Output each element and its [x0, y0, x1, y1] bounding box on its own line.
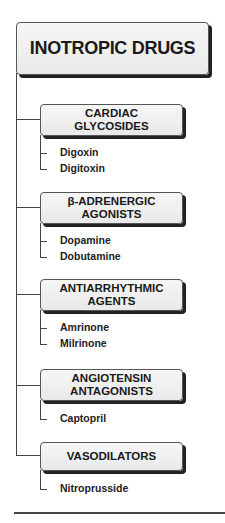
branch-angiotensin	[40, 400, 41, 420]
node-label-line1: VASODILATORS	[67, 450, 156, 463]
node-label-line1: CARDIAC	[85, 107, 138, 120]
node-angiotensin-antagonists: ANGIOTENSIN ANTAGONISTS	[40, 369, 183, 401]
tick-digitoxin	[40, 169, 47, 170]
node-label-line2: AGONISTS	[81, 208, 141, 221]
node-label-line2: ANTAGONISTS	[70, 385, 153, 398]
connector-beta	[16, 207, 40, 208]
node-vasodilators: VASODILATORS	[40, 442, 183, 471]
tick-dobutamine	[40, 257, 47, 258]
connector-angiotensin	[16, 385, 40, 386]
connector-vasodilators	[16, 455, 40, 456]
drug-digoxin: Digoxin	[60, 146, 99, 158]
bottom-divider	[14, 512, 225, 514]
drug-milrinone: Milrinone	[60, 337, 107, 349]
connector-cardiac	[16, 119, 40, 120]
node-cardiac-glycosides: CARDIAC GLYCOSIDES	[40, 104, 183, 136]
root-title: INOTROPIC DRUGS	[30, 38, 196, 59]
node-label-line1: β-ADRENERGIC	[67, 195, 155, 208]
branch-antiarrhythmic	[40, 310, 41, 344]
tick-amrinone	[40, 328, 47, 329]
drug-captopril: Captopril	[60, 412, 106, 424]
node-label-line1: ANGIOTENSIN	[72, 372, 152, 385]
node-label-line2: AGENTS	[88, 295, 136, 308]
branch-vasodilators	[40, 470, 41, 490]
tick-captopril	[40, 419, 47, 420]
drug-digitoxin: Digitoxin	[60, 162, 105, 174]
node-beta-adrenergic-agonists: β-ADRENERGIC AGONISTS	[40, 192, 183, 224]
drug-nitroprusside: Nitroprusside	[60, 482, 128, 494]
drug-amrinone: Amrinone	[60, 321, 109, 333]
node-antiarrhythmic-agents: ANTIARRHYTHMIC AGENTS	[40, 279, 183, 311]
node-label-line2: GLYCOSIDES	[74, 120, 148, 133]
tick-milrinone	[40, 344, 47, 345]
connector-antiarrhythmic	[16, 294, 40, 295]
drug-dobutamine: Dobutamine	[60, 250, 121, 262]
trunk-line	[16, 73, 17, 456]
branch-beta	[40, 223, 41, 257]
node-label-line1: ANTIARRHYTHMIC	[59, 282, 163, 295]
tick-digoxin	[40, 153, 47, 154]
root-node-inotropic-drugs: INOTROPIC DRUGS	[16, 22, 209, 75]
tick-nitroprusside	[40, 489, 47, 490]
branch-cardiac	[40, 135, 41, 169]
tick-dopamine	[40, 241, 47, 242]
drug-dopamine: Dopamine	[60, 234, 111, 246]
